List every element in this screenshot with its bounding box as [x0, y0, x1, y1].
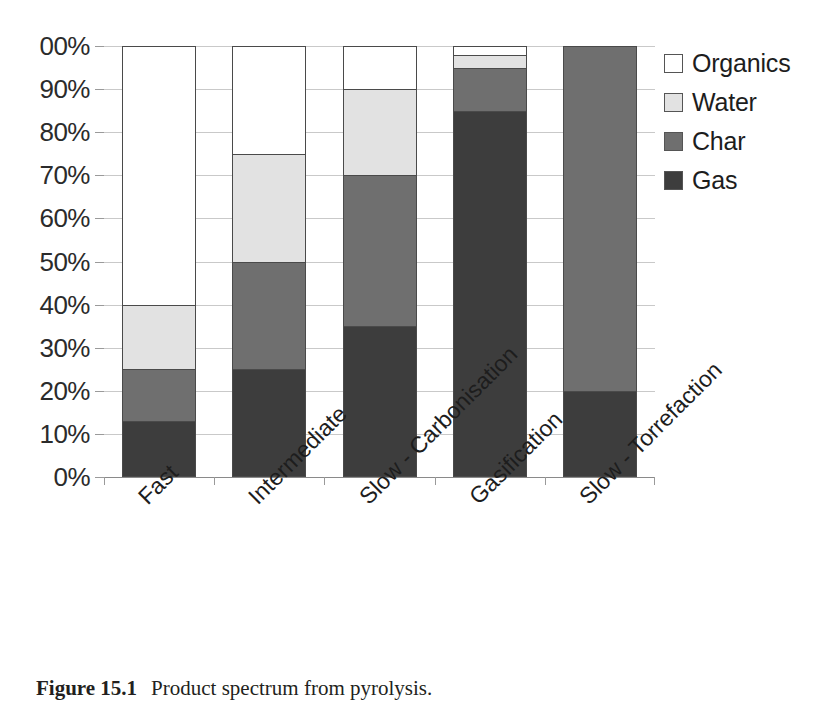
- legend-item-char[interactable]: Char: [664, 122, 814, 161]
- bar-segment-char[interactable]: [563, 46, 637, 391]
- legend-item-label: Water: [692, 90, 757, 115]
- stacked-bar[interactable]: [563, 46, 637, 477]
- y-axis-tick-mark: [95, 434, 104, 435]
- bar-segment-water[interactable]: [122, 305, 196, 370]
- y-axis-tick-label: 80%: [0, 119, 90, 145]
- y-axis-tick-label: 60%: [0, 205, 90, 231]
- legend-item-label: Gas: [692, 168, 737, 193]
- bar-segment-organics[interactable]: [122, 46, 196, 305]
- bar-segment-char[interactable]: [343, 175, 417, 326]
- y-axis-tick-mark: [95, 46, 104, 47]
- bar-segment-char[interactable]: [122, 369, 196, 421]
- plot-area: [104, 46, 655, 477]
- y-axis-tick-mark: [95, 89, 104, 90]
- y-axis-tick-labels: 00%90%80%70%60%50%40%30%20%10%0%: [0, 46, 90, 477]
- figure-caption-text: Product spectrum from pyrolysis.: [151, 676, 432, 700]
- bar-segment-char[interactable]: [232, 262, 306, 370]
- y-axis-tick-label: 70%: [0, 162, 90, 188]
- y-axis-tick-mark: [95, 348, 104, 349]
- y-axis-tick-label: 30%: [0, 335, 90, 361]
- legend-swatch-icon: [664, 93, 683, 112]
- bar-segment-water[interactable]: [343, 89, 417, 175]
- y-axis-tick-label: 00%: [0, 33, 90, 59]
- stacked-bar[interactable]: [232, 46, 306, 477]
- stacked-bar-chart: 00%90%80%70%60%50%40%30%20%10%0% FastInt…: [0, 0, 816, 670]
- bar-segment-organics[interactable]: [232, 46, 306, 154]
- stacked-bar[interactable]: [343, 46, 417, 477]
- bar-segment-organics[interactable]: [343, 46, 417, 89]
- figure-caption: Figure 15.1Product spectrum from pyrolys…: [36, 676, 796, 701]
- y-axis-tick-label: 40%: [0, 292, 90, 318]
- legend-item-label: Char: [692, 129, 745, 154]
- stacked-bar[interactable]: [122, 46, 196, 477]
- y-axis-tick-mark: [95, 477, 104, 478]
- y-axis-tick-mark: [95, 305, 104, 306]
- legend-swatch-icon: [664, 171, 683, 190]
- figure-page: 00%90%80%70%60%50%40%30%20%10%0% FastInt…: [0, 0, 816, 711]
- chart-legend: OrganicsWaterCharGas: [664, 44, 814, 200]
- legend-item-gas[interactable]: Gas: [664, 161, 814, 200]
- y-axis-tick-label: 0%: [0, 464, 90, 490]
- y-axis-tick-mark: [95, 218, 104, 219]
- y-axis-tick-label: 20%: [0, 378, 90, 404]
- bar-segment-organics[interactable]: [453, 46, 527, 55]
- y-axis-tick-mark: [95, 262, 104, 263]
- legend-swatch-icon: [664, 132, 683, 151]
- y-axis-tick-label: 50%: [0, 249, 90, 275]
- y-axis-tick-label: 90%: [0, 76, 90, 102]
- y-axis-tick-label: 10%: [0, 421, 90, 447]
- legend-item-organics[interactable]: Organics: [664, 44, 814, 83]
- y-axis-tick-mark: [95, 391, 104, 392]
- legend-item-water[interactable]: Water: [664, 83, 814, 122]
- y-axis-tick-mark: [95, 132, 104, 133]
- bar-segment-water[interactable]: [232, 154, 306, 262]
- bar-segment-gas[interactable]: [453, 111, 527, 477]
- legend-item-label: Organics: [692, 51, 790, 76]
- legend-swatch-icon: [664, 54, 683, 73]
- figure-number: Figure 15.1: [36, 676, 137, 700]
- bar-segment-water[interactable]: [453, 55, 527, 68]
- x-axis-category-labels: FastIntermediateSlow - CarbonisationGasi…: [104, 477, 655, 667]
- y-axis-tick-mark: [95, 175, 104, 176]
- bar-segment-char[interactable]: [453, 68, 527, 111]
- bar-group: [104, 46, 655, 477]
